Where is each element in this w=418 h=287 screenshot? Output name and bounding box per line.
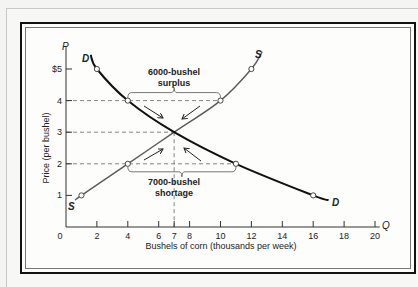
data-point-marker [311, 193, 316, 198]
x-tick-label: 0 [57, 231, 62, 241]
demand-label-top: D [82, 53, 89, 64]
x-axis-symbol: Q [382, 220, 390, 231]
data-point-marker [94, 66, 99, 71]
data-point-marker [125, 98, 130, 103]
y-tick-label: 4 [57, 96, 62, 106]
data-point-marker [125, 161, 130, 166]
labels: Price (per bushel) Bushels of corn (thou… [41, 41, 390, 251]
arrow-demand-down [144, 106, 163, 118]
arrow-demand-up [184, 148, 201, 161]
x-tick-label: 20 [370, 231, 380, 241]
data-point-marker [233, 161, 238, 166]
x-axis-label: Bushels of corn (thousands per week) [145, 241, 296, 251]
axes: 0246781012141618201234$5 [52, 47, 380, 241]
supply-label-top: S [255, 49, 262, 60]
data-point-marker [249, 66, 254, 71]
surplus-brace [128, 88, 221, 98]
x-tick-label: 6 [156, 231, 161, 241]
y-axis-label: Price (per bushel) [41, 112, 51, 183]
shortage-label-line1: 7000-bushel [148, 177, 200, 187]
surplus-label-line2: surplus [158, 78, 191, 88]
shortage-brace [128, 167, 236, 177]
x-tick-label: 4 [125, 231, 130, 241]
y-tick-label: 1 [57, 190, 62, 200]
y-tick-label: 3 [57, 127, 62, 137]
curves: DDSS [68, 49, 339, 212]
demand-label-bottom: D [332, 197, 339, 208]
data-point-marker [218, 98, 223, 103]
x-tick-label: 18 [339, 231, 349, 241]
x-tick-label: 12 [246, 231, 256, 241]
y-tick-label: $5 [52, 64, 62, 74]
y-axis-symbol: P [62, 41, 69, 52]
surplus-label-line1: 6000-bushel [148, 67, 200, 77]
x-tick-label: 2 [94, 231, 99, 241]
y-tick-label: 2 [57, 159, 62, 169]
supply-label-bottom: S [68, 201, 75, 212]
x-tick-label: 7 [172, 231, 177, 241]
demand-curve [91, 55, 329, 200]
x-tick-label: 10 [215, 231, 225, 241]
x-tick-label: 14 [277, 231, 287, 241]
shortage-label-line2: shortage [155, 188, 193, 198]
x-tick-label: 16 [308, 231, 318, 241]
data-point-marker [79, 193, 84, 198]
x-tick-label: 8 [187, 231, 192, 241]
